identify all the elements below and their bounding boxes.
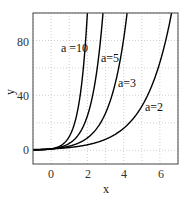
x-tick: 4 [121,167,127,181]
series-label-a5: a=5 [101,51,119,65]
curves [33,13,172,150]
series-label-a2: a=2 [145,100,163,114]
y-axis-label: y [3,89,17,95]
series-label-a3: a=3 [118,76,136,90]
y-tick-labels: 0 40 80 [17,35,29,157]
curve-a2 [33,13,172,150]
x-tick: 2 [85,167,91,181]
chart: 0 2 4 6 0 40 80 x y a =10 a=5 a=3 a=2 [0,0,187,199]
x-tick: 6 [158,167,164,181]
grid [33,13,178,164]
y-tick: 40 [17,89,29,103]
x-tick-labels: 0 2 4 6 [48,167,164,181]
curve-a5 [33,13,103,150]
curve-a10 [33,13,87,150]
x-axis-label: x [103,182,109,196]
curve-a3 [33,13,127,150]
x-tick: 0 [48,167,54,181]
y-tick: 80 [17,35,29,49]
y-tick: 0 [23,143,29,157]
series-label-a10: a =10 [61,41,88,55]
